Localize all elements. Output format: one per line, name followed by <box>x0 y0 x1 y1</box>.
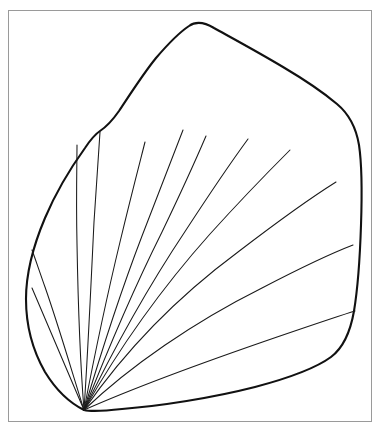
leaf-drawing-canvas: Palmate fan-shaped leaf outline drawing <box>0 0 381 430</box>
figure-root: Palmate fan-shaped leaf outline drawing <box>0 0 381 430</box>
leaf-group <box>26 23 362 411</box>
